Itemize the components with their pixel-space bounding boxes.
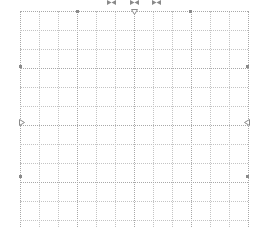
grid-line-vertical	[115, 11, 116, 228]
resize-handle[interactable]	[189, 10, 192, 13]
grid-line-horizontal	[20, 163, 248, 164]
resize-handle[interactable]	[19, 175, 22, 178]
grid-line-horizontal	[20, 144, 248, 145]
bowtie-icon[interactable]	[107, 0, 116, 5]
grid-line-horizontal	[20, 106, 248, 107]
triangle-down-icon[interactable]	[131, 9, 138, 15]
grid-line-horizontal	[20, 220, 248, 221]
grid-line-horizontal	[20, 87, 248, 88]
resize-handle[interactable]	[19, 65, 22, 68]
grid-line-vertical	[39, 11, 40, 228]
grid-line-vertical	[96, 11, 97, 228]
grid-line-vertical	[229, 11, 230, 228]
triangle-left-icon[interactable]	[244, 119, 250, 126]
grid	[20, 11, 248, 228]
grid-line-vertical	[172, 11, 173, 228]
grid-line-horizontal	[20, 49, 248, 50]
grid-line-vertical	[191, 11, 192, 228]
grid-line-vertical	[58, 11, 59, 228]
resize-handle[interactable]	[246, 175, 249, 178]
grid-line-vertical	[77, 11, 78, 228]
resize-handle[interactable]	[76, 10, 79, 13]
grid-line-vertical	[134, 11, 135, 228]
diagram-canvas[interactable]	[0, 0, 259, 228]
resize-handle[interactable]	[246, 65, 249, 68]
grid-line-vertical	[153, 11, 154, 228]
bowtie-icon[interactable]	[130, 0, 139, 5]
grid-line-horizontal	[20, 125, 248, 126]
grid-line-horizontal	[20, 68, 248, 69]
grid-line-horizontal	[20, 30, 248, 31]
bowtie-icon[interactable]	[152, 0, 161, 5]
grid-line-horizontal	[20, 182, 248, 183]
grid-line-vertical	[210, 11, 211, 228]
triangle-right-icon[interactable]	[19, 119, 25, 126]
grid-line-horizontal	[20, 201, 248, 202]
